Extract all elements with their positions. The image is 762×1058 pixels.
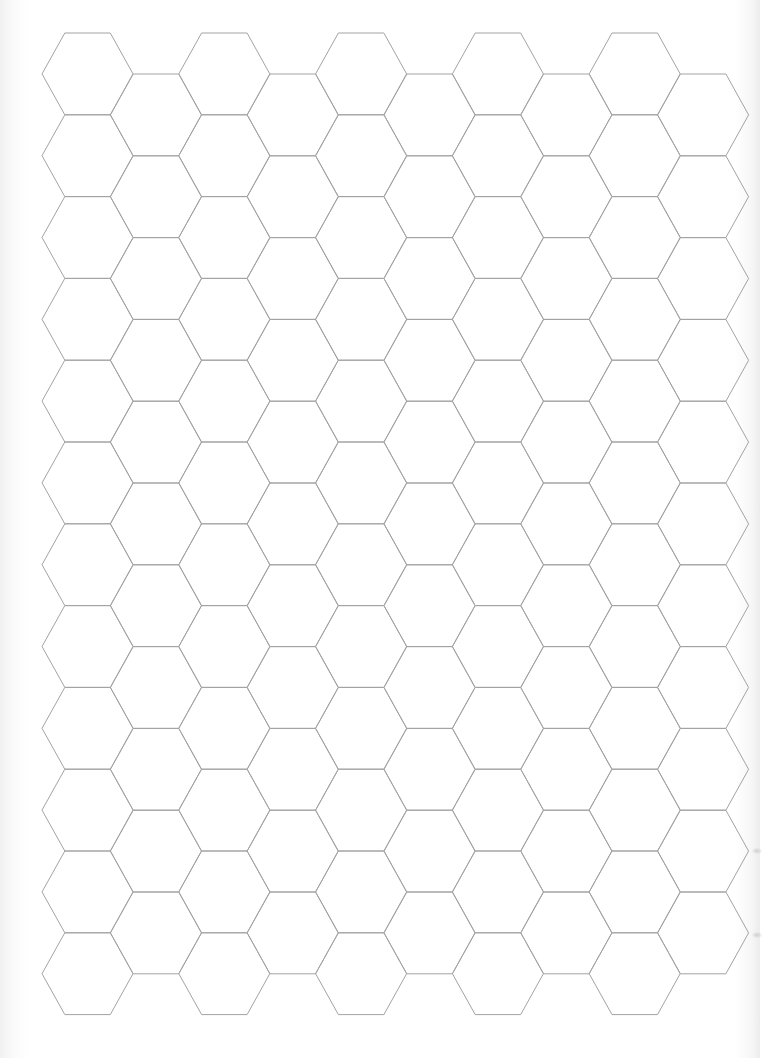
hex-cell (384, 483, 475, 565)
hex-cell (110, 647, 201, 729)
hex-cell (247, 319, 338, 401)
hex-cell (384, 156, 475, 238)
hex-cell (179, 606, 270, 688)
hex-cell (316, 33, 407, 115)
hex-cell (452, 769, 543, 851)
hex-cell (589, 33, 680, 115)
hex-cell (521, 74, 612, 156)
scan-mark (752, 932, 762, 938)
hex-cell (658, 238, 749, 320)
hex-cell (384, 728, 475, 810)
hex-cell (179, 851, 270, 933)
hex-cell (384, 892, 475, 974)
hex-cell (658, 728, 749, 810)
hex-cell (384, 810, 475, 892)
hex-cell (110, 319, 201, 401)
hex-cell (452, 278, 543, 360)
hex-cell (247, 892, 338, 974)
hex-cell (384, 319, 475, 401)
hex-cell (658, 319, 749, 401)
hex-cell (589, 769, 680, 851)
hex-cell (589, 115, 680, 197)
hex-cell (589, 524, 680, 606)
hex-cell (521, 238, 612, 320)
hex-cell (521, 565, 612, 647)
hex-cell (384, 238, 475, 320)
hex-cell (589, 442, 680, 524)
hex-cell (179, 769, 270, 851)
hex-cell (316, 851, 407, 933)
hex-cell (179, 278, 270, 360)
hex-cell (247, 238, 338, 320)
hex-cell (589, 933, 680, 1015)
hex-cell (247, 156, 338, 238)
hex-cell (316, 278, 407, 360)
hex-cell (42, 442, 133, 524)
hex-cell (42, 606, 133, 688)
hex-cell (110, 810, 201, 892)
hex-cell (658, 156, 749, 238)
hex-cell (247, 74, 338, 156)
hex-cell (452, 115, 543, 197)
hex-cell (316, 197, 407, 279)
hex-cell (658, 74, 749, 156)
hex-cell (589, 606, 680, 688)
hex-cell (384, 74, 475, 156)
hex-cell (316, 769, 407, 851)
hex-cell (42, 33, 133, 115)
hex-cell (316, 442, 407, 524)
hex-cell (452, 851, 543, 933)
hex-cell (247, 565, 338, 647)
hex-cell (42, 197, 133, 279)
hex-cell (316, 115, 407, 197)
hex-cell (179, 115, 270, 197)
hex-cell (452, 933, 543, 1015)
hex-cell (316, 687, 407, 769)
hex-cell (452, 360, 543, 442)
hex-cell (179, 933, 270, 1015)
hex-cell (110, 74, 201, 156)
hex-cell (452, 442, 543, 524)
hex-cell (316, 933, 407, 1015)
hex-cell (110, 401, 201, 483)
hex-cell (658, 892, 749, 974)
hex-cell (589, 851, 680, 933)
hex-cell (658, 810, 749, 892)
hex-cell (110, 892, 201, 974)
hex-cell (521, 728, 612, 810)
hex-cell (452, 524, 543, 606)
hex-cell (384, 565, 475, 647)
hex-cell (110, 238, 201, 320)
hex-cell (521, 647, 612, 729)
hex-cell (521, 810, 612, 892)
hex-cell (179, 442, 270, 524)
hex-cell (452, 33, 543, 115)
hex-cell (247, 401, 338, 483)
hex-cell (452, 687, 543, 769)
hex-cell (521, 483, 612, 565)
hex-cell (42, 687, 133, 769)
hex-cell (42, 769, 133, 851)
hex-cell (589, 278, 680, 360)
hex-cell (658, 565, 749, 647)
hex-cell (452, 197, 543, 279)
hex-cell (110, 728, 201, 810)
hex-cell (384, 647, 475, 729)
hex-cell (42, 115, 133, 197)
hex-cell (179, 687, 270, 769)
hex-cell (179, 524, 270, 606)
hex-cell (247, 647, 338, 729)
hex-cell (521, 319, 612, 401)
hex-cell (42, 524, 133, 606)
hex-cell (42, 851, 133, 933)
hex-cell (179, 360, 270, 442)
hex-cell (110, 156, 201, 238)
hex-cell (179, 33, 270, 115)
hex-cell (247, 810, 338, 892)
hex-cell (42, 360, 133, 442)
hex-cell (589, 360, 680, 442)
hex-cell (658, 401, 749, 483)
hex-cell (247, 728, 338, 810)
